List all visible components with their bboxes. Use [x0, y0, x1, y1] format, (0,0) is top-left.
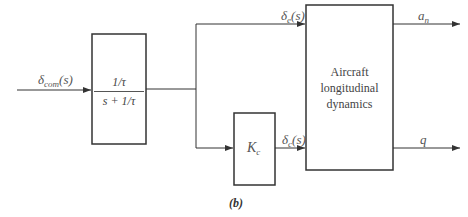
filter-transfer-function: 1/τ s + 1/τ	[94, 75, 144, 109]
figure-caption: (b)	[229, 196, 243, 211]
delta-e-label: δe(s)	[281, 9, 305, 25]
plant-label: Aircraft longitudinal dynamics	[306, 64, 393, 112]
input-signal-label: δcom(s)	[38, 73, 73, 89]
delta-c-label: δc(s)	[282, 133, 306, 149]
output-q-label: q	[420, 133, 427, 146]
diagram-lines	[0, 0, 468, 217]
output-an-label: an	[418, 9, 429, 25]
gain-label: Kc	[247, 141, 260, 157]
